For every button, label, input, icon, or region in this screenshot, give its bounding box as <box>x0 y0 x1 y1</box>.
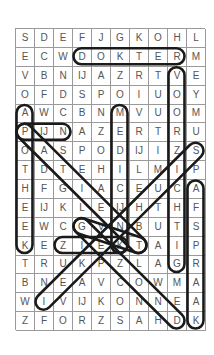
grid-cell[interactable]: O <box>168 86 187 105</box>
grid-cell[interactable]: O <box>149 29 168 48</box>
grid-cell[interactable]: N <box>92 105 111 124</box>
grid-cell[interactable]: IJ <box>73 67 92 86</box>
grid-cell[interactable]: I <box>168 161 187 180</box>
grid-cell[interactable]: P <box>73 142 92 161</box>
grid-cell[interactable]: I <box>168 237 187 256</box>
grid-cell[interactable]: D <box>54 86 73 105</box>
grid-cell[interactable]: N <box>111 218 130 237</box>
grid-cell[interactable]: K <box>92 293 111 312</box>
grid-cell[interactable]: L <box>130 256 149 275</box>
grid-cell[interactable]: H <box>92 161 111 180</box>
grid-cell[interactable]: N <box>35 274 54 293</box>
grid-cell[interactable]: S <box>187 218 206 237</box>
grid-cell[interactable]: K <box>54 199 73 218</box>
grid-cell[interactable]: E <box>130 180 149 199</box>
grid-cell[interactable]: Z <box>168 142 187 161</box>
grid-cell[interactable]: L <box>130 161 149 180</box>
grid-cell[interactable]: Z <box>111 256 130 275</box>
grid-cell[interactable]: W <box>54 48 73 67</box>
grid-cell[interactable]: O <box>168 105 187 124</box>
grid-cell[interactable]: G <box>111 29 130 48</box>
grid-cell[interactable]: C <box>111 274 130 293</box>
grid-cell[interactable]: W <box>149 274 168 293</box>
grid-cell[interactable]: R <box>130 67 149 86</box>
grid-cell[interactable]: M <box>111 105 130 124</box>
grid-cell[interactable]: IJ <box>111 199 130 218</box>
grid-cell[interactable]: S <box>187 142 206 161</box>
grid-cell[interactable]: A <box>73 274 92 293</box>
grid-cell[interactable]: F <box>187 199 206 218</box>
grid-cell[interactable]: T <box>16 161 35 180</box>
grid-cell[interactable]: H <box>168 199 187 218</box>
grid-cell[interactable]: E <box>92 199 111 218</box>
grid-cell[interactable]: V <box>92 218 111 237</box>
grid-cell[interactable]: V <box>54 293 73 312</box>
grid-cell[interactable]: O <box>111 86 130 105</box>
grid-cell[interactable]: K <box>130 29 149 48</box>
grid-cell[interactable]: V <box>168 67 187 86</box>
grid-cell[interactable]: S <box>54 142 73 161</box>
grid-cell[interactable]: K <box>187 312 206 331</box>
grid-cell[interactable]: O <box>130 274 149 293</box>
grid-cell[interactable]: R <box>168 48 187 67</box>
grid-cell[interactable]: C <box>168 180 187 199</box>
grid-cell[interactable]: A <box>187 274 206 293</box>
grid-cell[interactable]: IJ <box>73 293 92 312</box>
grid-cell[interactable]: P <box>92 256 111 275</box>
grid-cell[interactable]: P <box>16 123 35 142</box>
grid-cell[interactable]: G <box>73 218 92 237</box>
grid-cell[interactable]: W <box>35 218 54 237</box>
grid-cell[interactable]: A <box>187 180 206 199</box>
grid-cell[interactable]: R <box>73 312 92 331</box>
grid-cell[interactable]: B <box>35 67 54 86</box>
grid-cell[interactable]: K <box>16 237 35 256</box>
grid-cell[interactable]: N <box>54 67 73 86</box>
grid-cell[interactable]: D <box>168 312 187 331</box>
grid-cell[interactable]: N <box>149 293 168 312</box>
grid-cell[interactable]: F <box>73 29 92 48</box>
grid-cell[interactable]: M <box>187 48 206 67</box>
grid-cell[interactable]: I <box>35 293 54 312</box>
grid-cell[interactable]: I <box>130 86 149 105</box>
grid-cell[interactable]: M <box>149 161 168 180</box>
grid-cell[interactable]: IJ <box>130 142 149 161</box>
grid-cell[interactable]: G <box>54 180 73 199</box>
grid-cell[interactable]: I <box>111 161 130 180</box>
grid-cell[interactable]: P <box>92 86 111 105</box>
grid-cell[interactable]: I <box>73 180 92 199</box>
grid-cell[interactable]: S <box>111 312 130 331</box>
grid-cell[interactable]: W <box>16 293 35 312</box>
grid-cell[interactable]: R <box>35 256 54 275</box>
grid-cell[interactable]: H <box>149 312 168 331</box>
grid-cell[interactable]: C <box>35 48 54 67</box>
grid-cell[interactable]: U <box>54 256 73 275</box>
grid-cell[interactable]: T <box>149 67 168 86</box>
grid-cell[interactable]: A <box>92 67 111 86</box>
grid-cell[interactable]: F <box>35 86 54 105</box>
grid-cell[interactable]: D <box>35 29 54 48</box>
grid-cell[interactable]: A <box>73 123 92 142</box>
grid-cell[interactable]: T <box>168 218 187 237</box>
grid-cell[interactable]: L <box>73 199 92 218</box>
grid-cell[interactable]: C <box>54 105 73 124</box>
grid-cell[interactable]: V <box>16 67 35 86</box>
grid-cell[interactable]: D <box>35 161 54 180</box>
grid-cell[interactable]: U <box>149 86 168 105</box>
grid-cell[interactable]: U <box>149 218 168 237</box>
grid-cell[interactable]: N <box>54 123 73 142</box>
grid-cell[interactable]: P <box>187 237 206 256</box>
grid-cell[interactable]: S <box>73 86 92 105</box>
grid-cell[interactable]: G <box>168 256 187 275</box>
grid-cell[interactable]: E <box>168 293 187 312</box>
grid-cell[interactable]: I <box>149 142 168 161</box>
grid-cell[interactable]: A <box>35 142 54 161</box>
grid-cell[interactable]: IJ <box>35 199 54 218</box>
grid-cell[interactable]: E <box>54 29 73 48</box>
grid-cell[interactable]: H <box>130 199 149 218</box>
grid-cell[interactable]: D <box>111 142 130 161</box>
grid-cell[interactable]: Z <box>111 67 130 86</box>
grid-cell[interactable]: F <box>35 312 54 331</box>
grid-cell[interactable]: B <box>130 218 149 237</box>
grid-cell[interactable]: A <box>149 256 168 275</box>
grid-cell[interactable]: M <box>187 105 206 124</box>
